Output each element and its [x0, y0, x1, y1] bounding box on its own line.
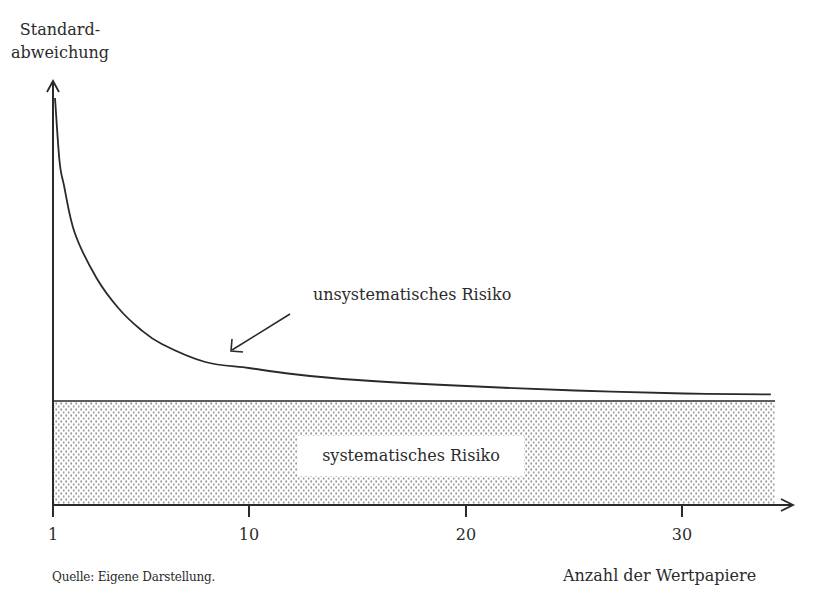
- x-tick-label-1: 1: [48, 525, 58, 544]
- x-tick-label-10: 10: [239, 525, 259, 544]
- risk-diversification-chart: [0, 0, 818, 611]
- source-note: Quelle: Eigene Darstellung.: [52, 570, 215, 584]
- x-axis-ticks: [53, 505, 682, 517]
- total-risk-curve: [55, 98, 771, 394]
- x-tick-label-20: 20: [456, 525, 476, 544]
- unsystematic-risk-pointer-arrow: [232, 314, 290, 350]
- x-axis-label: Anzahl der Wertpapiere: [563, 566, 756, 585]
- x-tick-label-30: 30: [672, 525, 692, 544]
- systematic-risk-label: systematisches Risiko: [298, 436, 524, 476]
- unsystematic-risk-label: unsystematisches Risiko: [313, 285, 511, 304]
